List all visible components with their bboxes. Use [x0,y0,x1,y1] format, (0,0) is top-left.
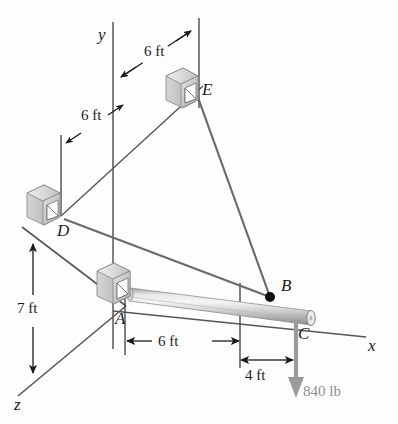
cable-BE [196,92,270,297]
axis-label-x: x [368,337,376,354]
point-label-C: C [298,325,309,342]
bracket-support-D [27,185,60,225]
dimension-label-7ft: 7 ft [17,301,37,316]
cable-BD [64,219,270,297]
bracket-support-A [97,263,130,304]
load-label-840lb: 840 lb [303,384,341,399]
statics-diagram-figure: y x z A B C D E 6 ft 6 ft 7 ft 6 ft 4 ft… [0,0,398,424]
dimension-label-ab-6ft: 6 ft [158,334,178,349]
dimension-label-top-6ft: 6 ft [144,44,164,59]
dimension-label-left-6ft: 6 ft [81,108,101,123]
node-B-dot [265,292,275,302]
point-label-A: A [115,310,125,327]
point-label-B: B [281,277,291,294]
dimension-label-bc-4ft: 4 ft [245,368,265,383]
axis-label-z: z [14,396,21,413]
bracket-support-E [166,68,198,108]
axis-label-y: y [98,26,106,43]
diagram-canvas [0,0,398,424]
point-label-E: E [202,81,212,98]
point-label-D: D [57,222,69,239]
